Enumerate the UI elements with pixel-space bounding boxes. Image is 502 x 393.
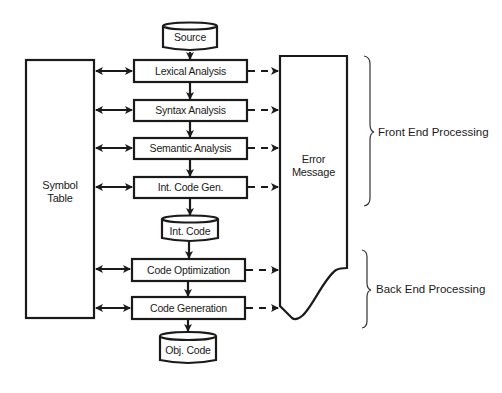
syntax-analysis-label: Syntax Analysis xyxy=(134,104,247,116)
int-code-label: Int. Code xyxy=(162,225,218,237)
symbol-table-arrows xyxy=(96,71,132,308)
obj-code-label: Obj. Code xyxy=(160,344,216,356)
front-end-processing-label: Front End Processing xyxy=(378,126,489,138)
back-end-processing-label: Back End Processing xyxy=(376,283,485,295)
code-generation-label: Code Generation xyxy=(132,302,245,314)
back-end-brace xyxy=(362,250,371,328)
semantic-analysis-label: Semantic Analysis xyxy=(134,142,247,154)
front-end-brace xyxy=(364,56,374,206)
symbol-table-label-line2: Table xyxy=(26,192,94,204)
error-arrows xyxy=(246,71,278,308)
error-message-box xyxy=(280,56,347,319)
error-message-label-line2: Message xyxy=(280,166,347,178)
error-message-label-line1: Error xyxy=(280,153,347,165)
lexical-analysis-label: Lexical Analysis xyxy=(134,65,247,77)
int-code-gen-label: Int. Code Gen. xyxy=(134,181,247,193)
source-label: Source xyxy=(163,31,217,43)
code-optimization-label: Code Optimization xyxy=(132,264,245,276)
symbol-table-label-line1: Symbol xyxy=(26,179,94,191)
